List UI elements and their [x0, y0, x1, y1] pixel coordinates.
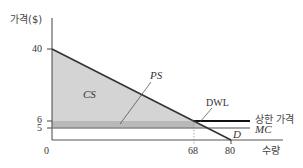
demand-label: D: [233, 129, 241, 140]
dwl-leader-line: [200, 108, 212, 122]
y-axis-label: 가격($): [10, 15, 42, 25]
chart-canvas: [0, 0, 303, 168]
ps-area: [52, 121, 194, 128]
x-axis-label: 수량: [262, 146, 280, 156]
mc-label: MC: [255, 124, 272, 135]
ps-label: PS: [150, 70, 162, 81]
x-tick-label-80: 80: [225, 146, 235, 156]
x-tick-label-68: 68: [188, 146, 198, 156]
dwl-label: DWL: [206, 98, 229, 108]
cs-label: CS: [83, 89, 96, 100]
origin-label: 0: [44, 146, 49, 156]
y-tick-label-40: 40: [32, 44, 42, 54]
y-tick-label-5: 5: [37, 123, 42, 133]
